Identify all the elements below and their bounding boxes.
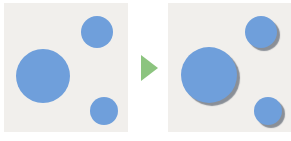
large-circle-shadowed bbox=[181, 47, 237, 103]
top-small-circle bbox=[81, 16, 113, 48]
bottom-small-circle bbox=[90, 97, 118, 125]
large-circle bbox=[16, 49, 70, 103]
bottom-small-circle-shadowed bbox=[254, 97, 282, 125]
arrow-right-icon bbox=[141, 55, 158, 81]
top-small-circle-shadowed bbox=[245, 16, 277, 48]
